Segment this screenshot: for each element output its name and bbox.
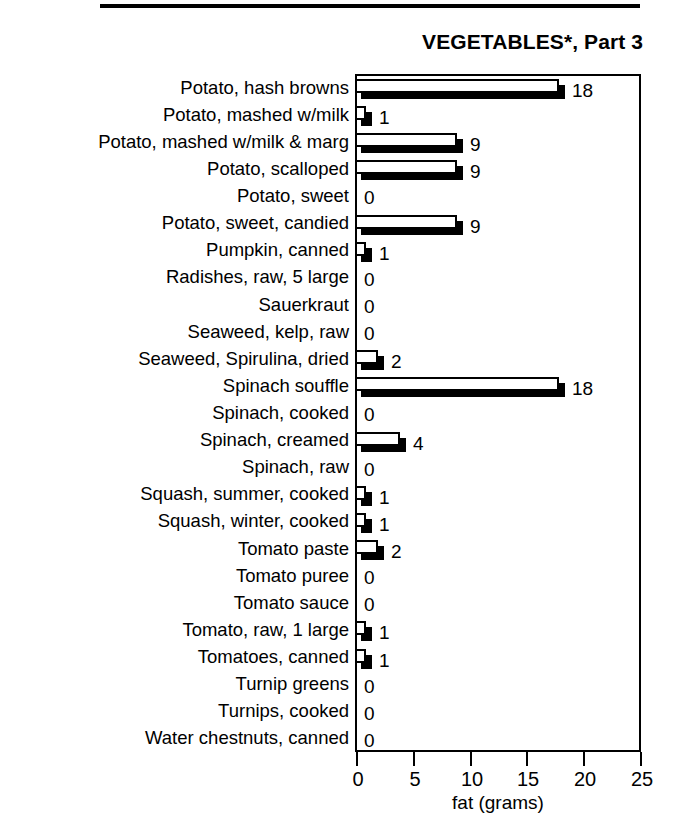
category-label: Spinach, creamed [0,430,349,450]
x-tick-mark [526,752,528,766]
bar-row: 9 [355,155,641,182]
category-label: Potato, scalloped [0,159,349,179]
bar [355,79,559,93]
bar-value-label: 0 [364,270,375,289]
bar-value-label: 1 [379,623,390,642]
bar-value-label: 0 [364,188,375,207]
category-label: Tomato paste [0,539,349,559]
bar-value-label: 0 [364,731,375,750]
bar-value-label: 4 [413,434,424,453]
bar-value-label: 9 [470,162,481,181]
bar-value-label: 1 [379,515,390,534]
bar-row: 4 [355,427,641,454]
x-tick-label: 15 [508,768,548,790]
bar [355,649,366,663]
bar [355,160,457,174]
bar-row: 1 [355,616,641,643]
category-label: Spinach souffle [0,376,349,396]
bar [355,540,378,554]
category-label: Potato, sweet, candied [0,213,349,233]
fat-content-bar-chart: VEGETABLES*, Part 3 Potato, hash brownsP… [0,0,685,828]
bar [355,377,559,391]
category-label: Tomato, raw, 1 large [0,620,349,640]
bars-layer: 181990910002180401120011000 [355,74,641,752]
category-label: Squash, winter, cooked [0,511,349,531]
x-tick-mark [583,752,585,766]
bar [355,486,366,500]
bar [355,621,366,635]
bar-value-label: 0 [364,405,375,424]
bar-value-label: 1 [379,244,390,263]
category-label: Potato, hash browns [0,78,349,98]
bar-row: 0 [355,264,641,291]
bar-row: 0 [355,562,641,589]
bar-row: 1 [355,644,641,671]
bar-row: 0 [355,589,641,616]
bar [355,133,457,147]
bar-row: 1 [355,508,641,535]
category-label: Potato, mashed w/milk & marg [0,132,349,152]
category-label: Radishes, raw, 5 large [0,267,349,287]
category-label: Turnips, cooked [0,701,349,721]
category-label: Spinach, raw [0,457,349,477]
bar [355,350,378,364]
bar-value-label: 0 [364,595,375,614]
bar-row: 0 [355,399,641,426]
bar [355,106,366,120]
x-axis-title: fat (grams) [355,792,641,814]
bar-value-label: 0 [364,297,375,316]
category-label: Seaweed, Spirulina, dried [0,349,349,369]
category-label: Tomato sauce [0,593,349,613]
category-label: Turnip greens [0,674,349,694]
bar-row: 1 [355,237,641,264]
bar-row: 0 [355,291,641,318]
bar-row: 0 [355,454,641,481]
category-label: Squash, summer, cooked [0,484,349,504]
x-tick-mark [640,752,642,766]
bar-value-label: 1 [379,108,390,127]
x-tick-mark [413,752,415,766]
x-tick-label: 0 [338,768,378,790]
category-label: Tomato puree [0,566,349,586]
bar-row: 1 [355,481,641,508]
x-tick-mark [470,752,472,766]
category-label: Tomatoes, canned [0,647,349,667]
bar-row: 18 [355,74,641,101]
bar-row: 0 [355,671,641,698]
bar-row: 0 [355,725,641,752]
category-label: Sauerkraut [0,295,349,315]
x-tick-label: 10 [452,768,492,790]
bar-row: 9 [355,210,641,237]
category-label: Spinach, cooked [0,403,349,423]
bar-row: 0 [355,182,641,209]
bar-value-label: 9 [470,135,481,154]
header-divider-rule [100,4,640,8]
bar-value-label: 1 [379,651,390,670]
bar-value-label: 18 [572,379,593,398]
x-tick-label: 5 [395,768,435,790]
bar-row: 0 [355,698,641,725]
bar-row: 0 [355,318,641,345]
bar-row: 2 [355,345,641,372]
bar-row: 9 [355,128,641,155]
x-tick-label: 20 [565,768,605,790]
category-label: Pumpkin, canned [0,240,349,260]
category-label: Potato, sweet [0,186,349,206]
bar-row: 18 [355,372,641,399]
category-axis-labels: Potato, hash brownsPotato, mashed w/milk… [0,74,349,752]
bar-row: 1 [355,101,641,128]
bar-value-label: 0 [364,677,375,696]
bar-value-label: 2 [391,352,402,371]
x-tick-label: 25 [622,768,662,790]
category-label: Potato, mashed w/milk [0,105,349,125]
bar [355,215,457,229]
bar-value-label: 0 [364,704,375,723]
bar-value-label: 0 [364,460,375,479]
category-label: Water chestnuts, canned [0,728,349,748]
bar [355,242,366,256]
bar-value-label: 18 [572,81,593,100]
bar-value-label: 0 [364,324,375,343]
bar [355,513,366,527]
x-tick-mark [356,752,358,766]
bar-value-label: 9 [470,217,481,236]
